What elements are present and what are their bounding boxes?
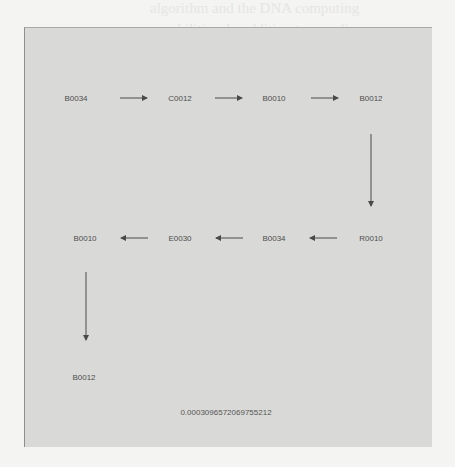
node-b0034: B0034: [262, 234, 285, 243]
node-b0012: B0012: [359, 94, 382, 103]
node-e0030: E0030: [168, 234, 191, 243]
probability-value: 0.0003096572069755212: [180, 408, 271, 417]
node-b0010: B0010: [262, 94, 285, 103]
node-b0034: B0034: [64, 94, 87, 103]
node-b0010: B0010: [73, 234, 96, 243]
node-r0010: R0010: [359, 234, 383, 243]
node-c0012: C0012: [168, 94, 192, 103]
node-b0012: B0012: [72, 373, 95, 382]
diagram-edges: [0, 0, 455, 467]
